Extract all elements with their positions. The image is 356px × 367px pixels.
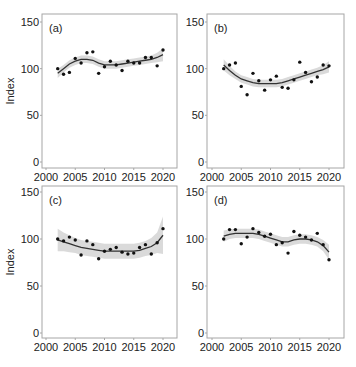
data-point	[240, 85, 243, 88]
data-point	[115, 246, 118, 249]
x-tick-label: 2015	[288, 341, 312, 353]
x-tick-label: 2005	[63, 171, 87, 183]
data-point	[263, 234, 266, 237]
x-tick-label: 2020	[317, 341, 341, 353]
data-point	[327, 258, 330, 261]
x-tick-label: 2015	[122, 341, 146, 353]
x-tick-label: 2000	[200, 171, 224, 183]
x-tick-label: 2005	[229, 171, 253, 183]
chart-figure: 05010015020002005201020152020(a)Index 05…	[0, 0, 356, 367]
data-point	[316, 75, 319, 78]
data-point	[321, 63, 324, 66]
plot-frame	[207, 14, 344, 168]
data-point	[222, 67, 225, 70]
y-tick-label: 100	[186, 63, 204, 75]
data-point	[234, 228, 237, 231]
y-tick-label: 0	[198, 156, 204, 168]
data-point	[161, 48, 164, 51]
plot-frame	[42, 186, 177, 338]
data-point	[269, 233, 272, 236]
panel-d: 05010015020002005201020152020(d)	[186, 186, 344, 353]
data-point	[150, 252, 153, 255]
data-point	[91, 50, 94, 53]
data-point	[68, 71, 71, 74]
x-tick-label: 2020	[151, 341, 175, 353]
data-point	[321, 243, 324, 246]
y-tick-label: 150	[21, 186, 39, 198]
data-point	[298, 60, 301, 63]
data-point	[138, 61, 141, 64]
x-tick-label: 2010	[92, 341, 116, 353]
data-point	[132, 251, 135, 254]
data-point	[103, 65, 106, 68]
data-point	[228, 228, 231, 231]
panel-label: (a)	[49, 22, 62, 34]
data-point	[109, 60, 112, 63]
data-point	[62, 239, 65, 242]
data-point	[103, 250, 106, 253]
data-point	[56, 67, 59, 70]
data-point	[126, 252, 129, 255]
data-point	[251, 227, 254, 230]
data-point	[240, 242, 243, 245]
panel-label: (c)	[49, 194, 62, 206]
data-point	[97, 257, 100, 260]
y-tick-label: 50	[27, 109, 39, 121]
data-point	[97, 72, 100, 75]
data-point	[68, 235, 71, 238]
y-tick-label: 0	[33, 327, 39, 339]
data-point	[74, 238, 77, 241]
x-tick-label: 2010	[258, 341, 282, 353]
data-point	[155, 241, 158, 244]
x-tick-label: 2020	[151, 171, 175, 183]
data-point	[115, 63, 118, 66]
y-tick-label: 50	[192, 280, 204, 292]
x-tick-label: 2010	[258, 171, 282, 183]
data-point	[286, 87, 289, 90]
data-point	[310, 238, 313, 241]
x-tick-label: 2010	[92, 171, 116, 183]
y-tick-label: 150	[21, 16, 39, 28]
data-point	[85, 239, 88, 242]
data-point	[161, 227, 164, 230]
data-point	[62, 73, 65, 76]
data-point	[281, 86, 284, 89]
data-point	[327, 64, 330, 67]
data-point	[79, 61, 82, 64]
y-tick-label: 100	[186, 233, 204, 245]
plot-frame	[207, 186, 344, 338]
data-point	[126, 60, 129, 63]
y-axis-label: Index	[4, 77, 16, 104]
data-point	[292, 230, 295, 233]
x-tick-label: 2005	[229, 341, 253, 353]
data-point	[275, 74, 278, 77]
data-point	[257, 231, 260, 234]
data-point	[228, 63, 231, 66]
y-tick-label: 100	[21, 233, 39, 245]
x-tick-label: 2015	[122, 171, 146, 183]
y-tick-label: 150	[186, 186, 204, 198]
data-point	[298, 234, 301, 237]
data-point	[316, 232, 319, 235]
y-tick-label: 0	[33, 156, 39, 168]
data-point	[120, 69, 123, 72]
data-point	[74, 57, 77, 60]
y-tick-label: 50	[192, 109, 204, 121]
x-tick-label: 2020	[317, 171, 341, 183]
data-point	[234, 61, 237, 64]
data-point	[269, 78, 272, 81]
data-point	[304, 235, 307, 238]
y-tick-label: 50	[27, 280, 39, 292]
data-point	[155, 64, 158, 67]
panel-label: (b)	[214, 22, 227, 34]
data-point	[109, 248, 112, 251]
plot-frame	[42, 14, 177, 168]
data-point	[245, 93, 248, 96]
y-tick-label: 0	[198, 327, 204, 339]
data-point	[304, 71, 307, 74]
data-point	[310, 80, 313, 83]
data-point	[56, 237, 59, 240]
x-tick-label: 2000	[34, 171, 58, 183]
data-point	[251, 72, 254, 75]
x-tick-label: 2015	[288, 171, 312, 183]
